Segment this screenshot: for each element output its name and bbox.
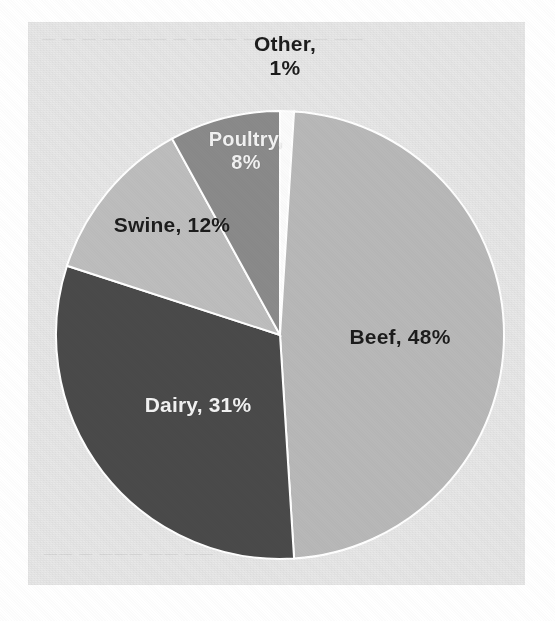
- pie-label-poultry: Poultry, 8%: [186, 128, 306, 174]
- pie-label-poultry-line1: Poultry,: [209, 128, 284, 150]
- pie-label-other-line2: 1%: [230, 56, 340, 80]
- pie-label-dairy-line1: Dairy, 31%: [145, 393, 252, 416]
- pie-label-beef: Beef, 48%: [330, 325, 470, 349]
- pie-chart-svg: [0, 0, 555, 621]
- pie-label-other: Other, 1%: [230, 32, 340, 80]
- pie-label-poultry-line2: 8%: [186, 151, 306, 174]
- chart-page: — — — —— —— — ——— —— —— — —— —— — ——— ——…: [0, 0, 555, 621]
- pie-label-dairy: Dairy, 31%: [118, 393, 278, 417]
- pie-label-swine: Swine, 12%: [92, 213, 252, 237]
- pie-label-other-line1: Other,: [254, 32, 316, 55]
- pie-chart: Other, 1% Beef, 48% Dairy, 31% Swine, 12…: [0, 0, 555, 621]
- pie-label-beef-line1: Beef, 48%: [349, 325, 450, 348]
- pie-label-swine-line1: Swine, 12%: [114, 213, 230, 236]
